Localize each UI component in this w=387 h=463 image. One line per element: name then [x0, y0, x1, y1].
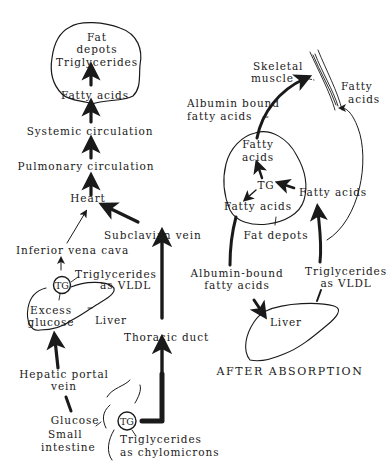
- subclavian-vein-label: Subclavian vein: [104, 229, 202, 241]
- tg-chylomicrons-label-line1: Triglycerides: [120, 433, 202, 445]
- skeletal-muscle-label-line2: muscle: [251, 72, 294, 84]
- pulmonary-circulation-label: Pulmonary circulation: [18, 160, 155, 172]
- depot-fatty-acids-lower-label: Fatty acids: [224, 200, 292, 212]
- heart-label: Heart: [70, 192, 105, 204]
- tg-vldl-label-line2: as VLDL: [100, 279, 151, 291]
- incoming-fatty-acids-label: Fatty acids: [299, 186, 367, 198]
- hepatic-portal-vein-label-line2: vein: [51, 380, 77, 392]
- right-liver-outline: [246, 303, 339, 360]
- glucose-label: Glucose: [51, 414, 100, 426]
- muscle-fatty-acids-label-line1: Fatty: [341, 80, 373, 92]
- tg-badge-liver: TG: [55, 280, 69, 292]
- depot-fatty-acids-label-line1: Fatty: [242, 138, 274, 150]
- tg-vldl-right-label-line2: as VLDL: [320, 277, 371, 289]
- muscle-fatty-acids-label-line2: acids: [348, 93, 380, 105]
- fatty-acids-label: Fatty acids: [61, 89, 129, 101]
- small-intestine-label-line1: Small: [48, 428, 83, 440]
- fat-depots-right-label: Fat depots: [244, 229, 309, 241]
- depot-tg-label: TG: [257, 179, 274, 191]
- excess-glucose-label-line1: Excess: [30, 304, 72, 316]
- after-absorption-caption: AFTER ABSORPTION: [217, 366, 364, 378]
- small-intestine-label-line2: intestine: [41, 441, 96, 453]
- albumin-bound-fatty-acids-label-line1: Albumin bound: [187, 97, 280, 109]
- liver-label-right: Liver: [270, 316, 302, 328]
- liver-label-left: Liver: [95, 314, 127, 326]
- tg-chylomicrons-label-line2: as chylomicrons: [120, 446, 219, 458]
- fat-metabolism-diagram: Fat depots Triglycerides Fatty acids Sys…: [0, 0, 387, 463]
- excess-glucose-label-line2: glucose: [28, 316, 75, 328]
- thoracic-duct-label: Thoracic duct: [124, 331, 209, 343]
- albumin-bound-fatty-acids-2-label-line2: fatty acids: [204, 279, 269, 291]
- fat-depots-label-line1: Fat: [87, 31, 107, 43]
- systemic-circulation-label: Systemic circulation: [27, 125, 154, 137]
- tg-badge-intestine: TG: [120, 416, 134, 428]
- albumin-bound-fatty-acids-label-line2: fatty acids: [187, 110, 252, 122]
- depot-fatty-acids-label-line2: acids: [242, 151, 274, 163]
- skeletal-muscle-label-line1: Skeletal: [253, 60, 303, 72]
- triglycerides-label: Triglycerides: [56, 56, 138, 68]
- hepatic-portal-vein-label-line1: Hepatic portal: [19, 368, 109, 380]
- inferior-vena-cava-label: Inferior vena cava: [16, 244, 129, 256]
- tg-vldl-right-label-line1: Triglycerides: [305, 265, 387, 277]
- albumin-bound-fatty-acids-2-label-line1: Albumin-bound: [190, 267, 283, 279]
- skeletal-muscle-outline: [310, 50, 342, 110]
- fat-depots-label-line2: depots: [77, 43, 118, 55]
